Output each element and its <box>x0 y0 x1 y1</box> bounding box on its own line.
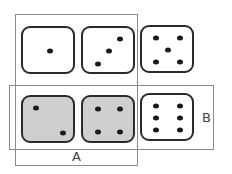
pip-dot <box>165 48 171 53</box>
pip-dot <box>117 37 123 42</box>
pip-dot <box>47 49 53 54</box>
set-b-label: B <box>202 111 211 124</box>
pip-dot <box>117 107 123 112</box>
die-face-2 <box>21 95 75 143</box>
die-face-6 <box>140 93 194 141</box>
pip-dot <box>95 62 101 67</box>
set-a-label: A <box>72 150 81 163</box>
die-face-4 <box>81 95 135 143</box>
pip-dot <box>117 130 123 135</box>
pip-dot <box>177 36 183 41</box>
pip-dot <box>153 116 159 121</box>
pip-dot <box>177 104 183 109</box>
die-face-5 <box>140 25 194 73</box>
die-face-1 <box>21 26 75 74</box>
pip-dot <box>153 60 159 65</box>
pip-dot <box>153 128 159 133</box>
pip-dot <box>95 130 101 135</box>
pip-dot <box>60 131 66 136</box>
pip-dot <box>153 36 159 41</box>
pip-dot <box>95 107 101 112</box>
pip-dot <box>33 106 39 111</box>
pip-dot <box>177 116 183 121</box>
pip-dot <box>153 104 159 109</box>
pip-dot <box>177 128 183 133</box>
pip-dot <box>106 49 112 54</box>
die-face-3 <box>81 26 135 74</box>
pip-dot <box>177 60 183 65</box>
